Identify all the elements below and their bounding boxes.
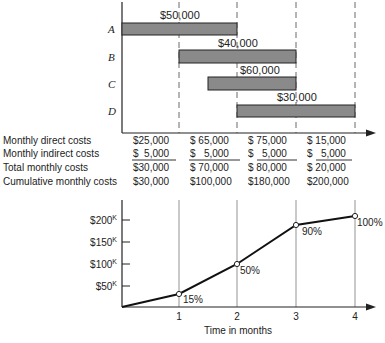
row-label-direct: Monthly direct costs xyxy=(3,135,91,146)
cell: $ 15,000 xyxy=(307,135,346,146)
cell: $ 75,000 xyxy=(248,135,287,146)
point-label: 15% xyxy=(183,294,203,305)
point-label: 50% xyxy=(240,265,260,276)
cell: $180,000 xyxy=(248,176,290,187)
cell: $ 65,000 xyxy=(190,135,229,146)
y-tick-label: $100K xyxy=(90,258,117,270)
x-axis-title: Time in months xyxy=(204,325,272,336)
y-tick-label: $150K xyxy=(90,236,117,248)
cell: $ 20,000 xyxy=(307,162,346,173)
row-label-total: Total monthly costs xyxy=(3,162,88,173)
activity-cost-a: $50,000 xyxy=(160,9,200,21)
cell: $30,000 xyxy=(133,176,170,187)
y-tick-label: $200K xyxy=(90,214,117,226)
cell: $ 5,000 xyxy=(248,148,287,159)
y-ticks xyxy=(122,220,130,286)
cell: $ 5,000 xyxy=(307,148,346,159)
x-tick-label: 2 xyxy=(234,311,240,322)
bar-c xyxy=(208,77,296,90)
x-tick-label: 4 xyxy=(352,311,358,322)
activity-label-a: A xyxy=(107,23,115,35)
cost-table: Monthly direct costs Monthly indirect co… xyxy=(3,135,352,187)
cell: $100,000 xyxy=(190,176,232,187)
cell: $30,000 xyxy=(133,162,170,173)
cell: $ 5,000 xyxy=(133,148,170,159)
cell: $25,000 xyxy=(133,135,170,146)
bar-b xyxy=(179,50,296,63)
arrow-icon xyxy=(366,304,376,311)
cell: $ 70,000 xyxy=(190,162,229,173)
cumulative-cost-chart: $50K $100K $150K $200K 1 2 3 4 Time in m… xyxy=(90,200,383,336)
point-label: 100% xyxy=(357,217,383,228)
activity-cost-c: $60,000 xyxy=(240,64,280,76)
arrow-icon xyxy=(366,130,376,137)
activity-label-b: B xyxy=(108,51,115,63)
chart-gridlines xyxy=(179,200,355,307)
x-tick-label: 3 xyxy=(293,311,299,322)
bar-d xyxy=(237,105,355,117)
row-label-indirect: Monthly indirect costs xyxy=(3,148,99,159)
activity-cost-b: $40,000 xyxy=(218,37,258,49)
row-label-cumulative: Cumulative monthly costs xyxy=(3,176,117,187)
data-markers xyxy=(176,213,357,296)
figure: A B C D $50,000 $40,000 $60,000 $30,000 … xyxy=(0,0,385,343)
gantt-chart: A B C D $50,000 $40,000 $60,000 $30,000 xyxy=(107,2,376,137)
y-tick-label: $50K xyxy=(96,280,118,292)
activity-cost-d: $30,000 xyxy=(277,91,317,103)
cell: $200,000 xyxy=(307,176,349,187)
cell: $ 80,000 xyxy=(248,162,287,173)
activity-label-d: D xyxy=(107,105,116,117)
bar-a xyxy=(122,23,237,35)
cell: $ 5,000 xyxy=(190,148,229,159)
point-label: 90% xyxy=(302,226,322,237)
x-tick-label: 1 xyxy=(176,311,182,322)
activity-label-c: C xyxy=(108,78,116,90)
